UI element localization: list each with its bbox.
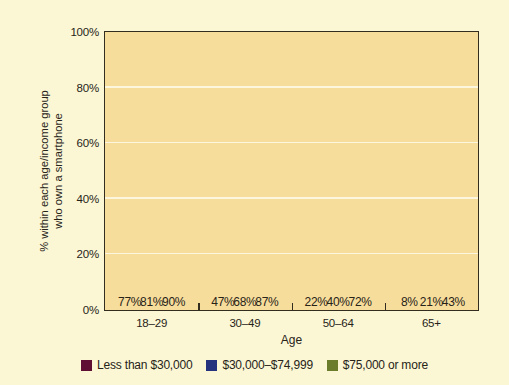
x-axis-title: Age — [104, 333, 479, 347]
bar-value-label: 90% — [162, 295, 185, 309]
bar-value-label: 40% — [326, 295, 349, 309]
bar-value-label: 21% — [420, 295, 443, 309]
bar-group: 8%21%43%65+ — [385, 32, 478, 310]
x-axis-tick-label: 18–29 — [136, 317, 167, 329]
y-axis-tick-label: 40% — [77, 193, 105, 205]
bar-group: 47%68%87%30–49 — [198, 32, 291, 310]
bar-value-label: 8% — [401, 295, 418, 309]
x-axis-tick-label: 30–49 — [229, 317, 260, 329]
y-axis-title-line1: % within each age/income group — [37, 90, 51, 252]
legend-color-swatch — [206, 360, 217, 371]
legend-item[interactable]: Less than $30,000 — [81, 358, 192, 372]
y-axis-tick-label: 60% — [77, 137, 105, 149]
bar-group: 77%81%90%18–29 — [105, 32, 198, 310]
bar-value-label: 22% — [304, 295, 327, 309]
x-axis-tick-mark — [292, 303, 294, 310]
legend-item[interactable]: $30,000–$74,999 — [206, 358, 312, 372]
bar-value-label: 68% — [233, 295, 256, 309]
chart-figure: % within each age/income group who own a… — [0, 0, 509, 385]
legend-item[interactable]: $75,000 or more — [327, 358, 428, 372]
bar-value-label: 43% — [442, 295, 465, 309]
plot-area: 0%20%40%60%80%100% 77%81%90%18–2947%68%8… — [104, 31, 479, 311]
bar-group: 22%40%72%50–64 — [292, 32, 385, 310]
legend-label: $30,000–$74,999 — [222, 358, 312, 372]
x-axis-tick-label: 65+ — [422, 317, 441, 329]
bar-value-label: 87% — [255, 295, 278, 309]
x-axis-tick-label: 50–64 — [323, 317, 354, 329]
x-axis-tick-mark — [385, 303, 387, 310]
bar-value-label: 81% — [140, 295, 163, 309]
bar-value-label: 77% — [118, 295, 141, 309]
y-axis-title-line2: who own a smartphone — [51, 90, 65, 252]
y-axis-tick-label: 100% — [70, 26, 105, 38]
bar-groups: 77%81%90%18–2947%68%87%30–4922%40%72%50–… — [105, 32, 478, 310]
legend-label: $75,000 or more — [343, 358, 428, 372]
bar-value-label: 72% — [348, 295, 371, 309]
chart-legend: Less than $30,000$30,000–$74,999$75,000 … — [0, 358, 509, 372]
legend-color-swatch — [327, 360, 338, 371]
x-axis-tick-mark — [198, 303, 200, 310]
y-axis-tick-label: 80% — [77, 82, 105, 94]
y-axis-tick-label: 0% — [83, 304, 105, 316]
y-axis-title: % within each age/income group who own a… — [34, 31, 68, 311]
legend-label: Less than $30,000 — [97, 358, 192, 372]
bar-value-label: 47% — [211, 295, 234, 309]
y-axis-tick-label: 20% — [77, 248, 105, 260]
legend-color-swatch — [81, 360, 92, 371]
